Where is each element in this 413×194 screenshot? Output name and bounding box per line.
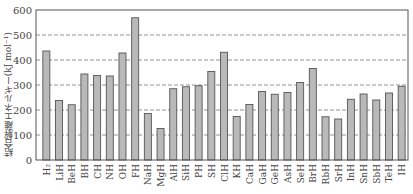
x-tick-label: OH (118, 164, 128, 179)
bar-clh (221, 52, 228, 160)
bar-alh (170, 89, 177, 160)
y-tick-label: 300 (13, 80, 32, 91)
bar-gah (259, 92, 266, 161)
bars (43, 18, 405, 160)
x-tick-label: SH (207, 164, 217, 178)
bar-lih (56, 101, 63, 161)
x-tick-label: InH (346, 164, 356, 181)
x-tick-label: BrH (308, 164, 318, 183)
x-tick-label: AsH (283, 164, 293, 184)
y-tick-label: 0 (26, 155, 32, 166)
bar-nah (144, 114, 151, 161)
x-tick-label: BH (80, 164, 90, 179)
x-tick-label: BeH (67, 164, 77, 184)
x-tick-label: MgH (156, 164, 166, 187)
y-axis-ticks: 0100200300400500600 (13, 5, 32, 166)
bar-kh (233, 117, 240, 161)
x-axis-labels: H₂LiHBeHBHCHNHOHFHNaHMgHAlHSiHPHSHClHKHC… (42, 164, 407, 187)
bar-chart: 0100200300400500600 H₂LiHBeHBHCHNHOHFHNa… (0, 0, 413, 194)
x-tick-label: PH (194, 164, 204, 178)
bar-seh (297, 83, 304, 161)
y-tick-label: 500 (13, 30, 32, 41)
x-tick-label: NaH (143, 164, 153, 185)
x-tick-label: NH (105, 164, 115, 180)
bar-sh (208, 72, 215, 161)
bar-h2 (43, 51, 50, 160)
bar-oh (119, 53, 126, 160)
x-tick-label: CH (93, 164, 103, 179)
bar-sbh (373, 100, 380, 160)
bar-ph (195, 86, 202, 160)
x-tick-label: TeH (384, 164, 394, 183)
x-tick-label: RbH (321, 164, 331, 185)
x-tick-label: KH (232, 164, 242, 179)
bar-rbh (322, 117, 329, 160)
x-tick-label: H₂ (42, 164, 52, 176)
bar-inh (347, 99, 354, 160)
bar-teh (385, 93, 392, 160)
bar-brh (309, 69, 316, 161)
bar-bh (81, 74, 88, 160)
x-tick-label: SeH (296, 164, 306, 183)
x-tick-label: SiH (181, 164, 191, 181)
bar-beh (68, 105, 75, 160)
x-tick-label: LiH (55, 164, 65, 181)
x-tick-label: CaH (245, 164, 255, 184)
bar-geh (271, 94, 278, 160)
x-tick-label: SrH (334, 164, 344, 182)
x-tick-label: FH (131, 164, 141, 178)
bar-srh (335, 119, 342, 160)
x-tick-label: AlH (169, 164, 179, 182)
x-tick-label: ClH (220, 164, 230, 182)
bar-snh (360, 94, 367, 160)
bar-sih (182, 87, 189, 160)
x-tick-label: IH (397, 164, 407, 176)
bar-nh (106, 76, 113, 160)
y-tick-label: 200 (13, 105, 32, 116)
y-tick-label: 400 (13, 55, 32, 66)
bar-ch (94, 76, 101, 161)
bar-fh (132, 18, 139, 160)
x-tick-label: GaH (258, 164, 268, 185)
bar-ih (398, 86, 405, 160)
bar-ash (284, 93, 291, 161)
x-tick-label: GeH (270, 164, 280, 185)
x-tick-label: SnH (359, 164, 369, 184)
bar-cah (246, 105, 253, 161)
y-tick-label: 100 (13, 130, 32, 141)
x-tick-label: SbH (372, 164, 382, 184)
bar-mgh (157, 129, 164, 161)
y-tick-label: 600 (13, 5, 32, 16)
